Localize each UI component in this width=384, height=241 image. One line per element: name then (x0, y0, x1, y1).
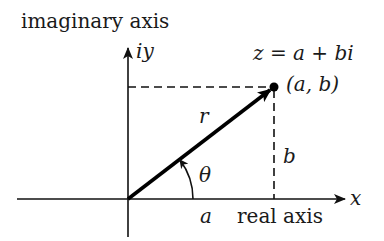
imaginary-axis-label: imaginary axis (21, 9, 169, 33)
point-coordinates-label: (a, b) (286, 72, 339, 96)
angle-arc-arrow (180, 160, 193, 199)
angle-theta-label: θ (199, 163, 211, 187)
real-axis-label: real axis (237, 204, 323, 228)
real-part-label: a (200, 204, 212, 228)
point-dot (270, 83, 279, 92)
imaginary-variable-label: iy (136, 39, 154, 63)
real-variable-label: x (350, 186, 361, 210)
complex-plane-diagram: imaginary axis iy z = a + bi (a, b) r b … (0, 0, 384, 241)
imaginary-part-label: b (283, 144, 296, 168)
equation-label: z = a + bi (252, 41, 354, 65)
radius-label: r (199, 104, 210, 128)
